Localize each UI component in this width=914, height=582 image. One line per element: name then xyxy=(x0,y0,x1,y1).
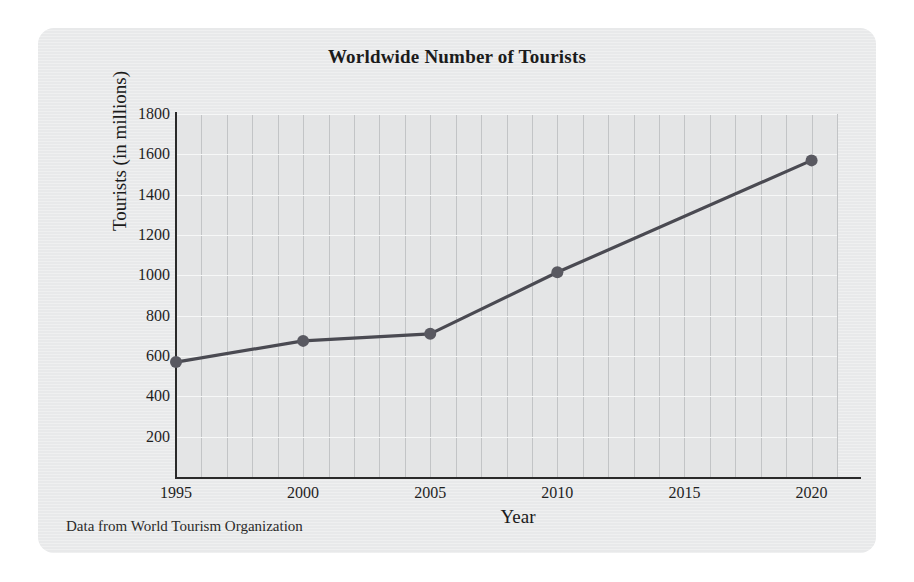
x-axis-tick-label: 2015 xyxy=(644,484,724,502)
x-axis-tick-label: 2010 xyxy=(517,484,597,502)
source-note: Data from World Tourism Organization xyxy=(66,518,303,535)
x-axis-tick-label: 2005 xyxy=(390,484,470,502)
y-axis-tick-label: 600 xyxy=(110,347,170,365)
x-axis-line xyxy=(175,477,861,479)
x-axis-tick-label: 1995 xyxy=(136,484,216,502)
y-axis-title: Tourists (in millions) xyxy=(109,28,131,301)
y-axis-tick-label: 400 xyxy=(110,387,170,405)
y-axis-tick-label: 800 xyxy=(110,307,170,325)
y-axis-tick-label: 200 xyxy=(110,428,170,446)
y-axis-line xyxy=(175,112,177,479)
chart-card: Worldwide Number of Tourists 20040060080… xyxy=(38,28,876,553)
screenshot-root: Worldwide Number of Tourists 20040060080… xyxy=(0,0,914,582)
gridline-vertical xyxy=(837,114,838,477)
x-axis-tick-label: 2020 xyxy=(772,484,852,502)
plot-area xyxy=(176,114,837,477)
x-axis-tick-label: 2000 xyxy=(263,484,343,502)
plot-background xyxy=(176,114,837,477)
